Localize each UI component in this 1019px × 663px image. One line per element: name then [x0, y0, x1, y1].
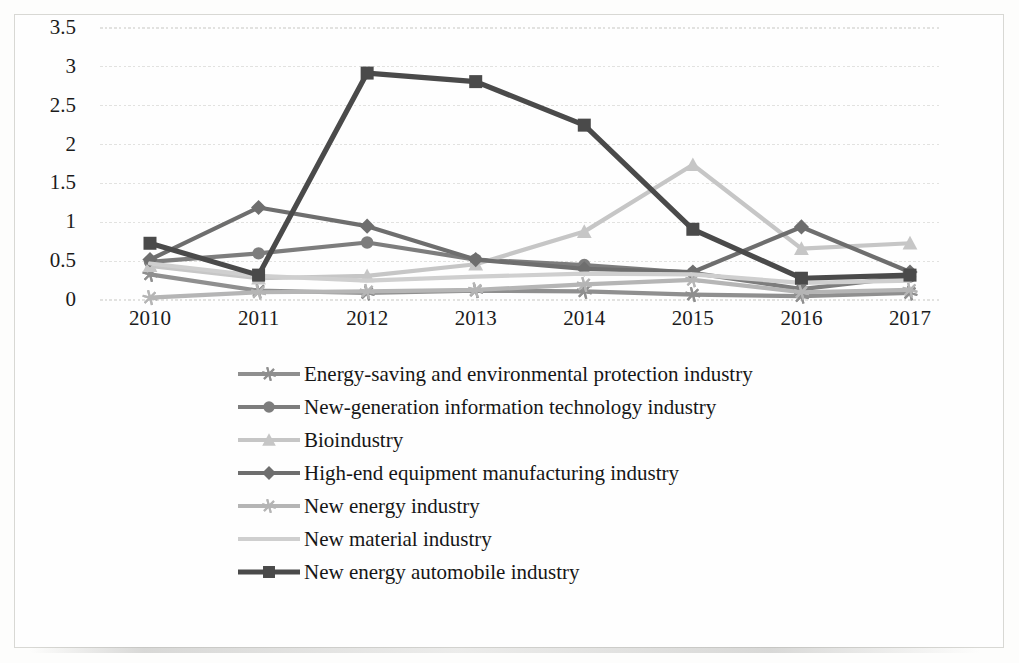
- legend-marker-asterisk-marker: [238, 364, 300, 384]
- legend-item-label: High-end equipment manufacturing industr…: [304, 461, 679, 485]
- x-axis-tick-label: 2011: [238, 307, 279, 329]
- circle-marker: [252, 247, 264, 259]
- legend-marker-asterisk-marker: [238, 496, 300, 516]
- legend-item-label: Bioindustry: [304, 428, 403, 452]
- x-axis-tick-label: 2013: [455, 307, 497, 329]
- legend-item-label: New energy industry: [304, 494, 480, 518]
- triangle-marker: [685, 157, 700, 171]
- square-marker: [686, 223, 699, 236]
- square-marker: [578, 119, 591, 132]
- legend-item[interactable]: High-end equipment manufacturing industr…: [238, 456, 978, 489]
- square-marker: [361, 67, 374, 80]
- legend-marker-square-marker: [238, 562, 300, 582]
- square-marker: [795, 272, 808, 285]
- square-marker: [252, 269, 265, 282]
- legend-marker-circle-marker: [238, 397, 300, 417]
- diamond-marker: [794, 219, 809, 234]
- legend-item[interactable]: Energy-saving and environmental protecti…: [238, 357, 978, 390]
- circle-marker: [263, 401, 274, 412]
- x-axis-tick-label: 2016: [780, 307, 822, 329]
- diamond-marker: [262, 466, 276, 480]
- y-axis-tick-label: 3.5: [30, 17, 76, 38]
- y-axis-tick-label: 3: [30, 56, 76, 77]
- y-axis-tick-label: 0.5: [30, 250, 76, 271]
- x-axis-tick-label: 2017: [889, 307, 931, 329]
- y-axis-tick-label: 1.5: [30, 172, 76, 193]
- x-axis-tick-label: 2012: [346, 307, 388, 329]
- chart-container: 00.511.522.533.5 20102011201220132014201…: [0, 0, 1019, 663]
- legend-item[interactable]: New energy industry: [238, 489, 978, 522]
- circle-marker: [361, 236, 373, 248]
- y-axis-tick-label: 0: [30, 289, 76, 310]
- legend-item-label: Energy-saving and environmental protecti…: [304, 362, 753, 386]
- legend-item-label: New-generation information technology in…: [304, 395, 716, 419]
- legend-marker-none-marker: [238, 529, 300, 549]
- diamond-marker: [360, 219, 375, 234]
- y-axis-tick-label: 2.5: [30, 95, 76, 116]
- chart-legend: Energy-saving and environmental protecti…: [238, 357, 978, 588]
- x-axis-tick-labels: 20102011201220132014201520162017: [82, 305, 940, 339]
- x-axis-tick-label: 2015: [672, 307, 714, 329]
- diamond-marker: [251, 200, 266, 215]
- legend-item-label: New material industry: [304, 527, 492, 551]
- square-marker: [144, 237, 157, 250]
- square-marker: [469, 75, 482, 88]
- y-axis-tick-label: 2: [30, 134, 76, 155]
- legend-item[interactable]: Bioindustry: [238, 423, 978, 456]
- scan-artifact: [30, 647, 980, 653]
- x-axis-tick-label: 2010: [129, 307, 171, 329]
- legend-marker-triangle-marker: [238, 430, 300, 450]
- series-lines: [82, 28, 940, 300]
- legend-item[interactable]: New-generation information technology in…: [238, 390, 978, 423]
- legend-item[interactable]: New material industry: [238, 522, 978, 555]
- x-axis-tick-label: 2014: [563, 307, 605, 329]
- y-axis-tick-label: 1: [30, 211, 76, 232]
- y-axis-tick-labels: 00.511.522.533.5: [16, 28, 76, 300]
- plot-area: [82, 28, 940, 300]
- square-marker: [263, 566, 275, 578]
- square-marker: [904, 269, 917, 282]
- legend-marker-diamond-marker: [238, 463, 300, 483]
- legend-item-label: New energy automobile industry: [304, 560, 579, 584]
- legend-item[interactable]: New energy automobile industry: [238, 555, 978, 588]
- series-group: [142, 200, 917, 280]
